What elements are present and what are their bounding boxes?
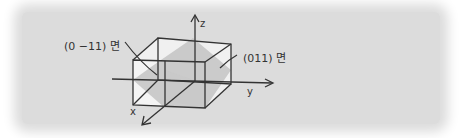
axis-label-y: y bbox=[247, 86, 253, 97]
axis-label-x: x bbox=[130, 106, 136, 117]
plane-label-0-11: (0 −11) 면 bbox=[64, 37, 120, 53]
plane-label-011: (011) 면 bbox=[243, 49, 286, 65]
axis-label-z: z bbox=[200, 18, 205, 29]
cube-diagram bbox=[0, 0, 463, 138]
